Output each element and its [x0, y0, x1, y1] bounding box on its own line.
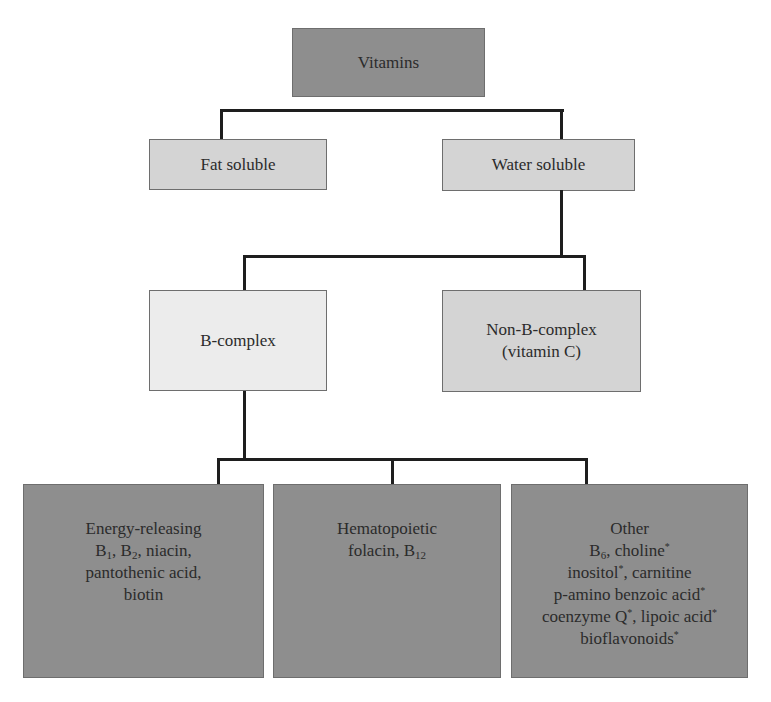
coenzyme-q-text: coenzyme Q	[542, 607, 627, 626]
energy-releasing-line4: biotin	[124, 584, 164, 606]
choline-text: , choline	[606, 541, 665, 560]
folacin-b-text: folacin, B	[348, 541, 415, 560]
other-title: Other	[610, 518, 649, 540]
node-vitamins-label: Vitamins	[358, 52, 419, 74]
b6-base: B	[589, 541, 600, 560]
other-line5: coenzyme Q*, lipoic acid*	[542, 606, 717, 628]
asterisk-marker: *	[700, 585, 705, 596]
connector-to-fat-soluble	[220, 109, 223, 140]
connector-to-energy-releasing	[217, 458, 220, 485]
other-line3: inositol*, carnitine	[568, 562, 692, 584]
connector-to-other	[585, 458, 588, 485]
hematopoietic-title: Hematopoietic	[337, 518, 437, 540]
node-non-b-complex-line2: (vitamin C)	[502, 341, 581, 363]
vitamin-classification-diagram: Vitamins Fat soluble Water soluble B-com…	[0, 0, 771, 702]
other-line4: p-amino benzoic acid*	[554, 584, 705, 606]
connector-to-non-b-complex	[583, 255, 586, 291]
node-fat-soluble: Fat soluble	[149, 139, 327, 190]
connector-b-complex-down	[243, 391, 246, 460]
asterisk-marker: *	[674, 629, 679, 640]
node-vitamins: Vitamins	[292, 28, 485, 97]
b1-base: B	[95, 541, 106, 560]
connector-to-b-complex	[243, 255, 246, 291]
node-other: Other B6, choline* inositol*, carnitine …	[511, 484, 748, 678]
b12-subscript: 12	[415, 549, 426, 561]
other-line6: bioflavonoids*	[580, 628, 679, 650]
b1-b2-separator: ,	[112, 541, 121, 560]
niacin-text: , niacin,	[137, 541, 191, 560]
bioflavonoids-text: bioflavonoids	[580, 629, 674, 648]
connector-to-water-soluble	[560, 109, 563, 140]
node-energy-releasing: Energy-releasing B1, B2, niacin, pantoth…	[23, 484, 264, 678]
node-b-complex-label: B-complex	[200, 330, 276, 352]
node-non-b-complex-line1: Non-B-complex	[486, 319, 596, 341]
connector-root-horizontal	[220, 109, 564, 112]
node-hematopoietic: Hematopoietic folacin, B12	[273, 484, 501, 678]
node-fat-soluble-label: Fat soluble	[200, 154, 275, 176]
asterisk-marker: *	[712, 607, 717, 618]
inositol-text: inositol	[568, 563, 619, 582]
energy-releasing-line2: B1, B2, niacin,	[95, 540, 191, 562]
node-b-complex: B-complex	[149, 290, 327, 391]
b2-base: B	[121, 541, 132, 560]
energy-releasing-line3: pantothenic acid,	[85, 562, 201, 584]
lipoic-acid-text: , lipoic acid	[632, 607, 712, 626]
connector-level2-horizontal	[243, 255, 586, 258]
paba-text: p-amino benzoic acid	[554, 585, 700, 604]
connector-water-soluble-down	[560, 190, 563, 258]
other-line2: B6, choline*	[589, 540, 669, 562]
asterisk-marker: *	[665, 541, 670, 552]
connector-to-hematopoietic	[391, 458, 394, 485]
carnitine-text: , carnitine	[624, 563, 692, 582]
node-water-soluble-label: Water soluble	[492, 154, 586, 176]
node-water-soluble: Water soluble	[442, 139, 635, 191]
connector-level3-horizontal	[217, 458, 588, 461]
hematopoietic-line2: folacin, B12	[348, 540, 426, 562]
node-non-b-complex: Non-B-complex (vitamin C)	[442, 290, 641, 392]
energy-releasing-title: Energy-releasing	[86, 518, 202, 540]
